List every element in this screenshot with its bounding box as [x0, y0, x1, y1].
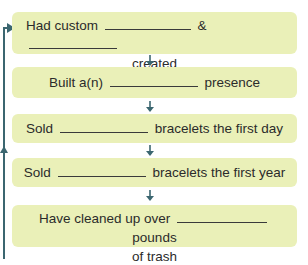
answer-blank[interactable] [177, 210, 267, 223]
arrow-down-icon [145, 145, 155, 156]
step-text: Built a(n) [49, 75, 103, 90]
step-first-day: Sold bracelets the first day [12, 114, 297, 143]
arrow-down-icon [145, 55, 155, 66]
step-text: Had custom [26, 18, 98, 33]
step-first-year: Sold bracelets the first year [12, 158, 297, 187]
step-custom-created: Had custom & created [12, 12, 297, 54]
step-text: pounds [132, 230, 176, 245]
loop-line [3, 28, 5, 259]
arrow-down-icon [145, 190, 155, 201]
step-text: bracelets the first year [152, 165, 285, 180]
step-presence: Built a(n) presence [12, 67, 297, 98]
answer-blank[interactable] [29, 36, 117, 49]
step-text: presence [205, 75, 261, 90]
step-trash: Have cleaned up over pounds of trash [12, 205, 297, 247]
step-text: Have cleaned up over [39, 211, 170, 226]
step-text: of trash [20, 247, 289, 265]
answer-blank[interactable] [105, 17, 191, 30]
arrow-down-icon [145, 101, 155, 112]
step-text: & [198, 18, 207, 33]
step-text: Sold [26, 121, 53, 136]
answer-blank[interactable] [110, 74, 198, 87]
step-text: Sold [24, 165, 51, 180]
answer-blank[interactable] [58, 164, 146, 177]
arrow-up-icon [0, 146, 8, 153]
step-text: bracelets the first day [155, 121, 283, 136]
answer-blank[interactable] [60, 120, 148, 133]
